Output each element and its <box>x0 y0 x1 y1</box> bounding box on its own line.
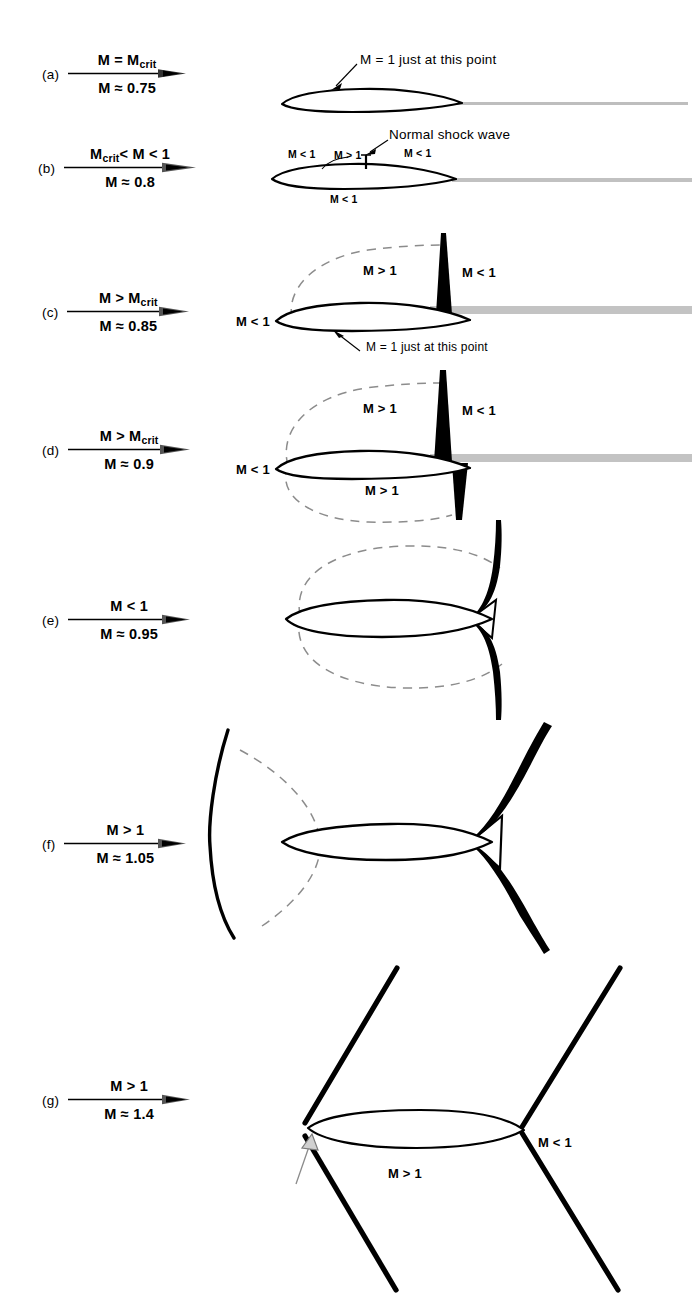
panel-a-sonic-point-note: M = 1 just at this point <box>360 52 497 67</box>
panel-d-upstream-subsonic: M < 1 <box>236 462 270 477</box>
panel-d-drawing <box>0 370 699 520</box>
panel-f-drawing <box>0 730 699 940</box>
panel-a: (a) M = Mcrit M ≈ 0.75 <box>0 0 699 118</box>
panel-b: (b) Mcrit< M < 1 M ≈ 0.8 <box>0 118 699 230</box>
panel-d-aft-subsonic: M < 1 <box>462 403 496 418</box>
panel-a-drawing <box>0 0 699 118</box>
panel-g: (g) M > 1 M ≈ 1.4 <box>0 960 699 1300</box>
panel-c-aft-subsonic: M < 1 <box>462 265 496 280</box>
panel-b-upper-aft-subsonic: M < 1 <box>404 147 432 159</box>
panel-c-upstream-subsonic: M < 1 <box>236 314 270 329</box>
panel-e: (e) M < 1 M ≈ 0.95 <box>0 520 699 720</box>
panel-c-sonic-point-note: M = 1 just at this point <box>366 340 488 354</box>
panel-c: (c) M > Mcrit M ≈ 0.85 <box>0 230 699 370</box>
panel-e-drawing <box>0 520 699 720</box>
panel-d: (d) M > Mcrit M ≈ 0.9 <box>0 370 699 520</box>
panel-c-drawing <box>0 230 699 370</box>
panel-d-upper-supersonic: M > 1 <box>363 401 397 416</box>
panel-b-drawing <box>0 118 699 230</box>
transonic-flow-figure: (a) M = Mcrit M ≈ 0.75 <box>0 0 699 1300</box>
panel-b-shock-note: Normal shock wave <box>389 127 510 142</box>
panel-f: (f) M > 1 M ≈ 1.05 <box>0 730 699 940</box>
panel-g-drawing <box>0 960 699 1300</box>
panel-d-lower-supersonic: M > 1 <box>365 483 399 498</box>
panel-b-lower-subsonic: M < 1 <box>330 193 358 205</box>
panel-b-upper-front-subsonic: M < 1 <box>288 148 316 160</box>
panel-c-upper-supersonic: M > 1 <box>363 263 397 278</box>
panel-b-supersonic-pocket: M > 1 <box>334 149 362 161</box>
